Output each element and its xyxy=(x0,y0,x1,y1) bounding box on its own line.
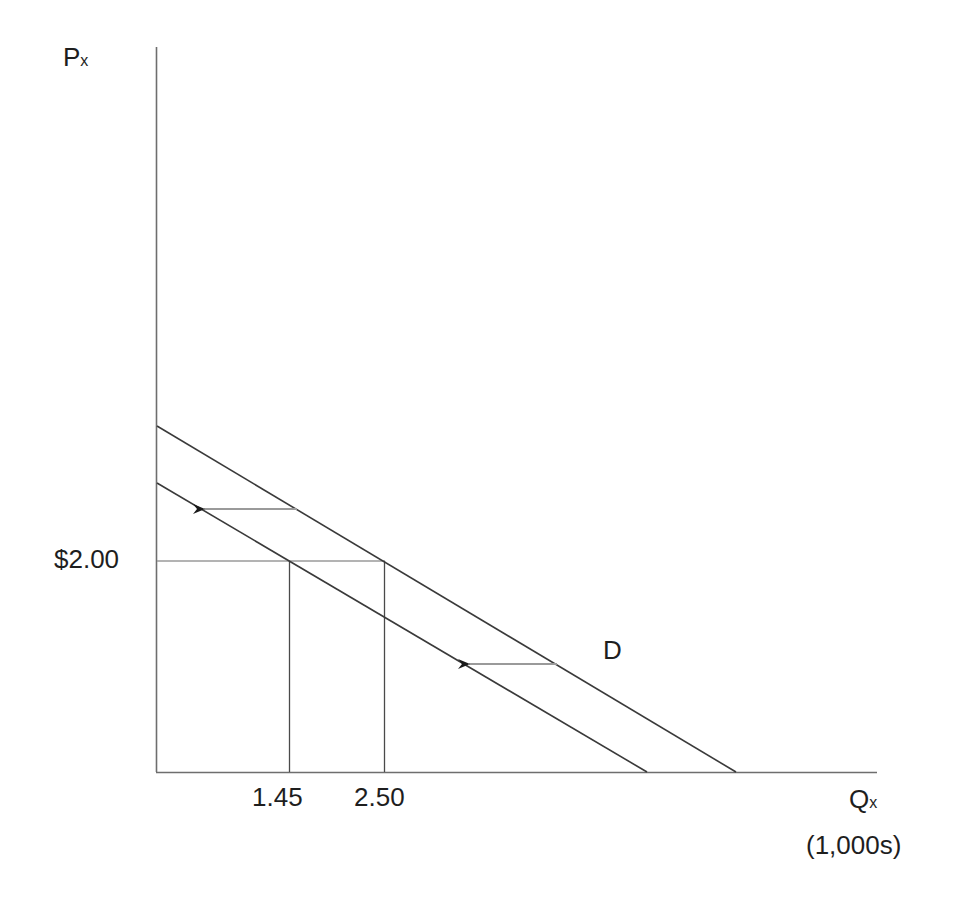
x-axis-label: Qx xyxy=(849,784,877,815)
x-axis-unit: (1,000s) xyxy=(806,830,901,861)
demand-curve-original xyxy=(157,426,736,772)
q-tick-2-50: 2.50 xyxy=(354,782,405,813)
q-tick-1-45: 1.45 xyxy=(252,782,303,813)
x-axis-label-main: Q xyxy=(849,784,869,814)
y-axis-label-sub: x xyxy=(80,52,88,69)
price-tick-label: $2.00 xyxy=(54,544,119,575)
demand-curve-shifted xyxy=(157,483,647,772)
y-axis-label-main: P xyxy=(63,42,80,72)
x-axis-label-sub: x xyxy=(869,794,877,811)
demand-label: D xyxy=(603,635,622,666)
y-axis-label: Px xyxy=(63,42,88,73)
demand-shift-chart xyxy=(0,0,963,911)
